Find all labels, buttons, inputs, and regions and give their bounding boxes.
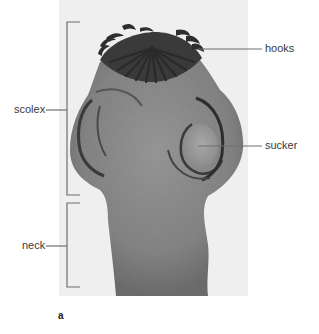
sucker-label: sucker xyxy=(265,140,297,151)
scolex-label: scolex xyxy=(14,104,45,115)
panel-letter: a xyxy=(58,310,64,321)
specimen-body xyxy=(70,54,243,296)
neck-bracket xyxy=(46,203,80,287)
neck-label: neck xyxy=(22,240,45,251)
hooks-label: hooks xyxy=(265,43,294,54)
figure: hooks sucker scolex neck a xyxy=(0,0,319,334)
